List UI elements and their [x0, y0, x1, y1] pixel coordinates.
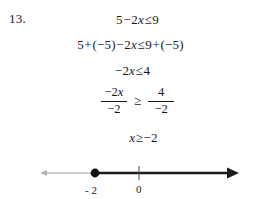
- right-arrowhead-icon: [227, 168, 239, 179]
- right-fraction: 4 −2: [148, 86, 174, 116]
- eq5-relation: ≥: [135, 130, 143, 145]
- eq5-value: −2: [144, 130, 158, 145]
- eq2-paren-left: (−5): [92, 37, 115, 52]
- eq2-paren-right: (−5): [161, 37, 184, 52]
- number-line-label-neg2: - 2: [85, 185, 97, 196]
- eq4-relation: ≥: [133, 93, 142, 109]
- eq2-coefficient: 2: [124, 37, 131, 52]
- number-line-svg: [0, 158, 257, 199]
- equation-line-5-solution: x≥−2: [0, 131, 257, 144]
- eq2-operator-minus: −: [116, 37, 125, 52]
- equation-line-2: 5+(−5)−2x≤9+(−5): [0, 38, 257, 51]
- left-arrowhead-icon: [40, 170, 47, 176]
- closed-circle-point-icon: [91, 169, 100, 178]
- eq2-operator-plus-2: +: [152, 37, 161, 52]
- right-fraction-denominator: −2: [151, 102, 170, 117]
- equation-line-3: −2x≤4: [0, 64, 257, 77]
- left-numerator-variable: x: [118, 85, 124, 99]
- eq3-right-side: 4: [143, 63, 150, 78]
- left-fraction-numerator: −2x: [101, 86, 126, 101]
- left-fraction: −2x −2: [101, 86, 127, 116]
- eq1-term-a: 5: [116, 12, 123, 27]
- eq2-term-a: 5: [77, 37, 84, 52]
- number-line-graph: - 2 0: [0, 158, 257, 199]
- equation-line-1: 5−2x≤9: [0, 13, 257, 26]
- worksheet-problem-page: 13. 5−2x≤9 5+(−5)−2x≤9+(−5) −2x≤4 −2x −2…: [0, 0, 257, 199]
- eq1-coefficient: 2: [131, 12, 138, 27]
- right-fraction-numerator: 4: [155, 86, 167, 101]
- eq2-right-term: 9: [145, 37, 152, 52]
- number-line-label-zero: 0: [136, 184, 142, 195]
- left-numerator-coefficient: −2: [104, 85, 117, 99]
- eq3-coefficient: −2: [115, 63, 129, 78]
- left-fraction-denominator: −2: [104, 102, 123, 117]
- equation-line-4: −2x −2 ≥ 4 −2: [0, 86, 257, 116]
- eq1-right-side: 9: [152, 12, 159, 27]
- eq1-operator-minus: −: [123, 12, 132, 27]
